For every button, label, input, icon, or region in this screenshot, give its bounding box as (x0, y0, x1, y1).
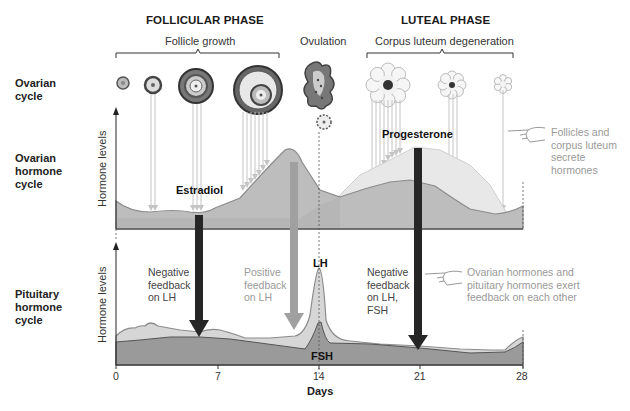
negative-feedback-lh-label: Negative feedback on LH (148, 266, 198, 304)
pointing-hand-icon (425, 271, 462, 285)
pituitary-y-axis-label: Hormone levels (96, 267, 108, 343)
x-tick-21: 21 (414, 370, 426, 382)
lh-label: LH (313, 257, 328, 269)
x-tick-0: 0 (113, 370, 119, 382)
estradiol-label: Estradiol (176, 184, 223, 196)
follicle-icon (117, 66, 282, 114)
x-tick-28: 28 (516, 370, 528, 382)
corpus-luteum-brace (367, 49, 513, 58)
follicle-growth-brace (116, 49, 279, 58)
ovarian-note: Follicles and corpus luteum secrete horm… (551, 126, 627, 176)
x-tick-14: 14 (313, 370, 325, 382)
positive-feedback-lh-label: Positive feedback on LH (244, 266, 294, 304)
progesterone-label: Progesterone (382, 128, 453, 140)
x-tick-7: 7 (215, 370, 221, 382)
fsh-label: FSH (311, 350, 333, 362)
pituitary-note: Ovarian hormones and pituitary hormones … (467, 266, 587, 304)
x-axis-label: Days (307, 385, 333, 397)
negative-feedback-lh-fsh-label: Negative feedback on LH, FSH (367, 266, 415, 316)
ovulation-icon (304, 62, 334, 129)
ovarian-y-axis-label: Hormone levels (96, 131, 108, 207)
pointing-hand-icon (508, 127, 545, 142)
